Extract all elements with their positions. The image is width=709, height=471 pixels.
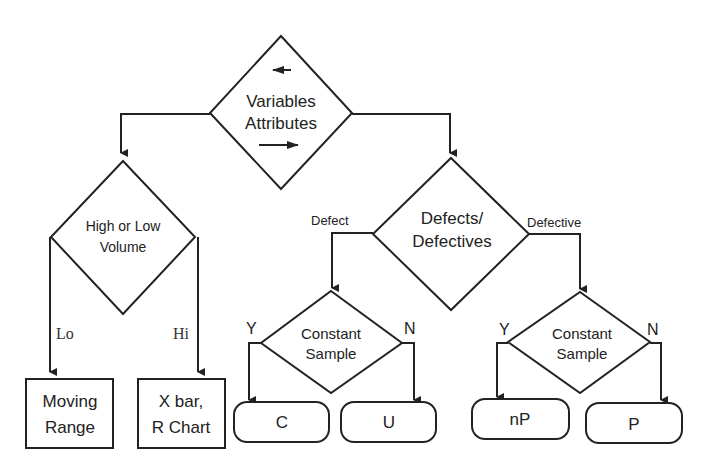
connector-left-no (402, 343, 414, 400)
decision-constant-sample-defect: Constant Sample (261, 291, 402, 393)
connector-right-yes (497, 343, 508, 397)
edge-label-right-no: N (647, 321, 659, 338)
decision-defects-defectives: Defects/ Defectives (373, 158, 529, 310)
edge-label-defect: Defect (311, 213, 349, 228)
decision-label-line2: Volume (100, 239, 147, 255)
result-label-line2: Range (45, 418, 95, 437)
result-label: C (276, 413, 288, 432)
connector-root-to-defects (352, 114, 450, 153)
result-moving-range: Moving Range (26, 379, 113, 448)
decision-label-line1: Defects/ (421, 209, 484, 228)
decision-high-low-volume: High or Low Volume (51, 161, 195, 314)
decision-label-line2: Defectives (412, 232, 491, 251)
edge-label-left-yes: Y (246, 320, 257, 337)
result-u-chart: U (341, 402, 436, 442)
connector-left-yes (249, 343, 261, 400)
result-label: U (383, 413, 395, 432)
decision-label-line2: Attributes (245, 114, 317, 133)
connector-defective (529, 234, 580, 289)
result-np-chart: nP (472, 399, 569, 439)
result-label: nP (510, 410, 531, 429)
flowchart-canvas: Variables Attributes High or Low Volume … (0, 0, 709, 471)
edge-label-lo: Lo (56, 325, 74, 342)
connector-defect (332, 233, 373, 288)
decision-label-line1: High or Low (86, 218, 162, 234)
result-p-chart: P (586, 403, 682, 443)
result-label-line2: R Chart (152, 418, 211, 437)
flowchart-svg: Variables Attributes High or Low Volume … (0, 0, 709, 471)
connector-right-no (650, 343, 661, 400)
edge-label-defective: Defective (527, 215, 581, 230)
decision-constant-sample-defective: Constant Sample (508, 292, 650, 393)
result-label-line1: X bar, (159, 392, 203, 411)
decision-variables-attributes: Variables Attributes (210, 36, 352, 189)
edge-label-left-no: N (404, 320, 416, 337)
result-xbar-r-chart: X bar, R Chart (138, 379, 225, 448)
connector-root-to-volume (121, 114, 210, 153)
result-c-chart: C (234, 402, 329, 442)
decision-label-line2: Sample (557, 345, 608, 362)
edge-label-hi: Hi (173, 325, 190, 342)
decision-label-line2: Sample (306, 345, 357, 362)
result-label-line1: Moving (43, 392, 98, 411)
decision-label-line1: Variables (246, 92, 316, 111)
decision-label-line1: Constant (552, 325, 613, 342)
edge-label-right-yes: Y (499, 321, 510, 338)
decision-label-line1: Constant (301, 325, 362, 342)
result-label: P (628, 415, 639, 434)
